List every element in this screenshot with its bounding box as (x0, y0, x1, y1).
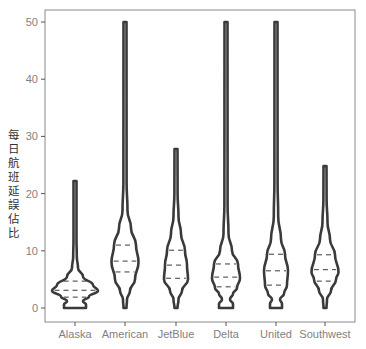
y-axis: 01020304050 (26, 16, 45, 314)
y-tick-label: 0 (32, 302, 38, 314)
x-tick-label: American (102, 328, 148, 340)
violin-chart: 01020304050 AlaskaAmericanJetBlueDeltaUn… (0, 0, 366, 349)
y-axis-title: 每日航班延誤佔比 (6, 128, 20, 240)
x-axis: AlaskaAmericanJetBlueDeltaUnitedSouthwes… (58, 322, 350, 340)
x-tick-label: United (260, 328, 292, 340)
x-tick-label: Alaska (58, 328, 92, 340)
y-tick-label: 40 (26, 73, 38, 85)
x-tick-label: Delta (213, 328, 240, 340)
y-tick-label: 20 (26, 188, 38, 200)
plot-panel (45, 10, 355, 322)
y-tick-label: 10 (26, 245, 38, 257)
x-tick-label: JetBlue (158, 328, 195, 340)
y-tick-label: 50 (26, 16, 38, 28)
y-tick-label: 30 (26, 130, 38, 142)
x-tick-label: Southwest (299, 328, 350, 340)
